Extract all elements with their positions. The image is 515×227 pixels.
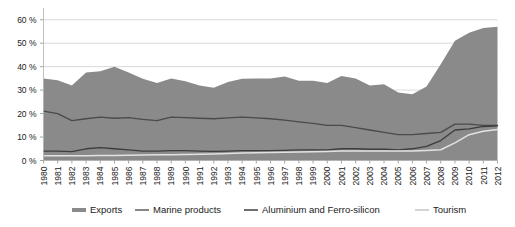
- x-axis-label: 1990: [181, 166, 191, 185]
- y-axis-labels: 0 %10 %20 %30 %40 %50 %60 %: [17, 15, 37, 166]
- y-axis-label: 10 %: [17, 132, 37, 142]
- exports-area-series: [44, 27, 498, 161]
- x-axis-label: 2006: [408, 166, 418, 185]
- x-axis-label: 2005: [393, 166, 403, 185]
- x-axis-label: 2009: [450, 166, 460, 185]
- y-axis-label: 30 %: [17, 85, 37, 95]
- legend-label: Tourism: [433, 204, 466, 215]
- chart-legend: ExportsMarine productsAluminium and Ferr…: [72, 204, 466, 215]
- legend-label: Marine products: [153, 204, 221, 215]
- x-axis-label: 2002: [351, 166, 361, 185]
- percent-of-gdp-area-chart: 0 %10 %20 %30 %40 %50 %60 % 198019811982…: [0, 0, 515, 227]
- legend-label: Exports: [90, 204, 122, 215]
- x-axis-label: 1985: [110, 166, 120, 185]
- x-axis-label: 2007: [422, 166, 432, 185]
- x-axis-label: 1981: [53, 166, 63, 185]
- x-axis-label: 2008: [436, 166, 446, 185]
- y-axis-label: 40 %: [17, 62, 37, 72]
- legend-item-tourism[interactable]: Tourism: [415, 204, 466, 215]
- x-axis-label: 1994: [237, 166, 247, 185]
- exports-area-fill: [44, 27, 498, 161]
- x-axis-label: 2010: [464, 166, 474, 185]
- y-axis-tick-marks: [40, 20, 44, 161]
- x-axis-label: 1992: [209, 166, 219, 185]
- x-axis-label: 2000: [322, 166, 332, 185]
- legend-item-marine-products[interactable]: Marine products: [135, 204, 221, 215]
- x-axis-label: 1983: [81, 166, 91, 185]
- x-axis-label: 1997: [280, 166, 290, 185]
- y-axis-label: 0 %: [22, 156, 37, 166]
- x-axis-label: 1991: [195, 166, 205, 185]
- x-axis-label: 1998: [294, 166, 304, 185]
- x-axis-label: 1995: [252, 166, 262, 185]
- x-axis-label: 2001: [337, 166, 347, 185]
- x-axis-label: 2003: [365, 166, 375, 185]
- y-axis-label: 60 %: [17, 15, 37, 25]
- x-axis-label: 1980: [39, 166, 49, 185]
- x-axis-label: 1986: [124, 166, 134, 185]
- y-axis-label: 20 %: [17, 109, 37, 119]
- x-axis-label: 1988: [152, 166, 162, 185]
- x-axis-label: 1989: [166, 166, 176, 185]
- legend-label: Aluminium and Ferro-silicon: [262, 204, 380, 215]
- x-axis-tick-marks: [44, 161, 498, 164]
- legend-item-aluminium-and-ferro-silicon[interactable]: Aluminium and Ferro-silicon: [244, 204, 380, 215]
- x-axis-labels: 1980198119821983198419851986198719881989…: [39, 166, 503, 185]
- x-axis-label: 1984: [95, 166, 105, 185]
- x-axis-label: 1999: [308, 166, 318, 185]
- y-axis-label: 50 %: [17, 38, 37, 48]
- x-axis-label: 2011: [479, 166, 489, 185]
- x-axis-label: 2012: [493, 166, 503, 185]
- x-axis-label: 1987: [138, 166, 148, 185]
- x-axis-label: 1996: [266, 166, 276, 185]
- x-axis-label: 1993: [223, 166, 233, 185]
- x-axis-label: 1982: [67, 166, 77, 185]
- x-axis-label: 2004: [379, 166, 389, 185]
- legend-item-exports[interactable]: Exports: [72, 204, 122, 215]
- chart-container: 0 %10 %20 %30 %40 %50 %60 % 198019811982…: [0, 0, 515, 227]
